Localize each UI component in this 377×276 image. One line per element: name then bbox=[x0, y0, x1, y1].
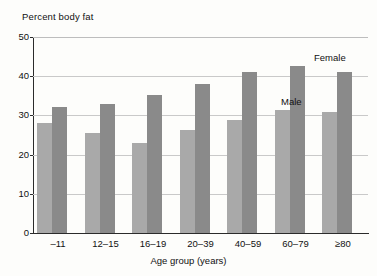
bar-female[interactable] bbox=[100, 104, 115, 233]
bar-male[interactable] bbox=[227, 120, 242, 233]
bar-male[interactable] bbox=[322, 112, 337, 233]
plot-area: 01020304050 bbox=[33, 37, 368, 233]
legend-label-male: Male bbox=[281, 96, 302, 107]
y-tick-label-20: 20 bbox=[5, 149, 29, 160]
x-axis-line bbox=[33, 233, 369, 234]
bar-female[interactable] bbox=[242, 72, 257, 233]
bar-male[interactable] bbox=[37, 123, 52, 233]
x-axis-title: Age group (years) bbox=[0, 255, 377, 266]
chart-title: Percent body fat bbox=[22, 11, 94, 22]
y-tick-label-50: 50 bbox=[5, 31, 29, 42]
y-tick-mark-0 bbox=[30, 233, 33, 234]
bar-female[interactable] bbox=[337, 72, 352, 233]
bar-female[interactable] bbox=[290, 66, 305, 233]
bar-male[interactable] bbox=[132, 143, 147, 233]
bar-male[interactable] bbox=[275, 110, 290, 233]
bar-group bbox=[85, 37, 127, 233]
bar-female[interactable] bbox=[52, 107, 67, 233]
x-tick-label: ≥80 bbox=[313, 238, 373, 249]
percent-body-fat-chart: Percent body fat 01020304050 –1112–1516–… bbox=[0, 0, 377, 276]
bar-group bbox=[37, 37, 79, 233]
bar-group bbox=[132, 37, 174, 233]
bar-group bbox=[180, 37, 222, 233]
bar-female[interactable] bbox=[195, 84, 210, 233]
bar-male[interactable] bbox=[180, 130, 195, 233]
bar-male[interactable] bbox=[85, 133, 100, 233]
y-tick-label-30: 30 bbox=[5, 109, 29, 120]
bar-group bbox=[227, 37, 269, 233]
bar-groups bbox=[33, 37, 368, 233]
y-tick-label-0: 0 bbox=[5, 227, 29, 238]
legend-label-female: Female bbox=[314, 52, 346, 63]
bar-female[interactable] bbox=[147, 95, 162, 233]
bar-group bbox=[322, 37, 364, 233]
y-tick-label-40: 40 bbox=[5, 70, 29, 81]
bar-group bbox=[275, 37, 317, 233]
y-tick-label-10: 10 bbox=[5, 188, 29, 199]
